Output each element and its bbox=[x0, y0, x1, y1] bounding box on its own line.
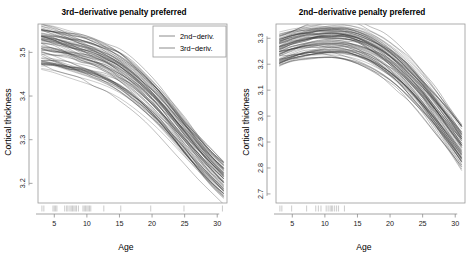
right-rug-marks bbox=[280, 206, 345, 212]
panel-right: 2nd−derivative penalty preferred 5101520… bbox=[238, 0, 476, 260]
right-yaxis-label: Cortical thickness bbox=[241, 88, 251, 155]
left-panel-title: 3rd−derivative penalty preferred bbox=[62, 8, 187, 17]
right-curve-bundle bbox=[279, 18, 461, 170]
ytick-label: 3.4 bbox=[18, 91, 27, 101]
xtick-label: 5 bbox=[290, 219, 294, 228]
right-panel-title: 2nd−derivative penalty preferred bbox=[299, 8, 426, 17]
right-xaxis-label: Age bbox=[356, 242, 372, 252]
xtick-label: 10 bbox=[321, 219, 329, 228]
trajectory-line bbox=[41, 58, 223, 193]
ytick-label: 3.1 bbox=[256, 85, 265, 95]
ytick-label: 3.3 bbox=[256, 33, 265, 43]
ytick-label: 2.8 bbox=[256, 163, 265, 173]
xtick-label: 15 bbox=[353, 219, 361, 228]
left-xaxis: 51015202530 bbox=[36, 214, 221, 228]
ytick-label: 3.3 bbox=[18, 135, 27, 145]
left-plot-body: 510152025303.23.33.43.52nd−deriv.3rd−der… bbox=[18, 24, 227, 228]
figure-canvas: 3rd−derivative penalty preferred 5101520… bbox=[0, 0, 476, 260]
xtick-label: 10 bbox=[83, 219, 91, 228]
ytick-label: 3.2 bbox=[256, 59, 265, 69]
trajectory-line bbox=[279, 50, 461, 157]
left-plot-svg: 3rd−derivative penalty preferred 5101520… bbox=[0, 0, 238, 260]
left-rug-marks bbox=[42, 206, 223, 212]
xtick-label: 30 bbox=[213, 219, 221, 228]
xtick-label: 5 bbox=[52, 219, 56, 228]
xtick-label: 15 bbox=[115, 219, 123, 228]
left-yaxis-label: Cortical thickness bbox=[3, 88, 13, 155]
ytick-label: 2.7 bbox=[256, 189, 265, 199]
legend-entry-label: 3rd−deriv. bbox=[180, 44, 213, 53]
ytick-label: 3.0 bbox=[256, 111, 265, 121]
xtick-label: 20 bbox=[386, 219, 394, 228]
xtick-label: 20 bbox=[148, 219, 156, 228]
ytick-label: 3.5 bbox=[18, 47, 27, 57]
xtick-label: 30 bbox=[451, 219, 459, 228]
xtick-label: 25 bbox=[181, 219, 189, 228]
trajectory-line bbox=[279, 57, 461, 161]
right-plot-svg: 2nd−derivative penalty preferred 5101520… bbox=[238, 0, 476, 260]
ytick-label: 3.2 bbox=[18, 178, 27, 188]
xtick-label: 25 bbox=[419, 219, 427, 228]
right-yaxis: 2.72.82.93.03.13.23.3 bbox=[256, 33, 271, 199]
left-xaxis-label: Age bbox=[118, 242, 134, 252]
trajectory-line bbox=[41, 69, 223, 193]
right-xaxis: 51015202530 bbox=[274, 214, 459, 228]
left-yaxis: 3.23.33.43.5 bbox=[18, 47, 33, 188]
panel-left: 3rd−derivative penalty preferred 5101520… bbox=[0, 0, 238, 260]
legend-entry-label: 2nd−deriv. bbox=[180, 32, 214, 41]
trajectory-line bbox=[41, 61, 223, 194]
left-legend: 2nd−deriv.3rd−deriv. bbox=[153, 26, 226, 57]
ytick-label: 2.9 bbox=[256, 137, 265, 147]
trajectory-line bbox=[279, 34, 461, 145]
right-plot-body: 510152025302.72.82.93.03.13.23.3 bbox=[256, 18, 465, 228]
